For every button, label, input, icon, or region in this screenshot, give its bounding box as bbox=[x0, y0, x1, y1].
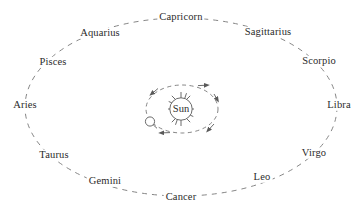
zodiac-label-pisces: Pisces bbox=[37, 57, 68, 68]
zodiac-label-libra: Libra bbox=[325, 100, 353, 111]
zodiac-label-scorpio: Scorpio bbox=[300, 56, 338, 67]
zodiac-label-aries: Aries bbox=[11, 100, 39, 111]
zodiac-label-sagittarius: Sagittarius bbox=[243, 27, 294, 38]
zodiac-diagram: Sun Capricorn Sagittarius Scorpio Libra … bbox=[0, 0, 362, 210]
zodiac-label-aquarius: Aquarius bbox=[78, 28, 122, 39]
zodiac-label-gemini: Gemini bbox=[87, 176, 123, 187]
orbit-arrow-right bbox=[214, 94, 218, 100]
zodiac-label-cancer: Cancer bbox=[164, 192, 199, 203]
zodiac-label-leo: Leo bbox=[252, 172, 273, 183]
zodiac-label-virgo: Virgo bbox=[300, 148, 328, 159]
orbit-arrow-bottom-right bbox=[208, 124, 214, 131]
zodiac-label-capricorn: Capricorn bbox=[157, 12, 204, 23]
earth-circle-icon bbox=[145, 117, 157, 128]
zodiac-label-taurus: Taurus bbox=[37, 150, 70, 161]
sun-label: Sun bbox=[173, 104, 189, 115]
